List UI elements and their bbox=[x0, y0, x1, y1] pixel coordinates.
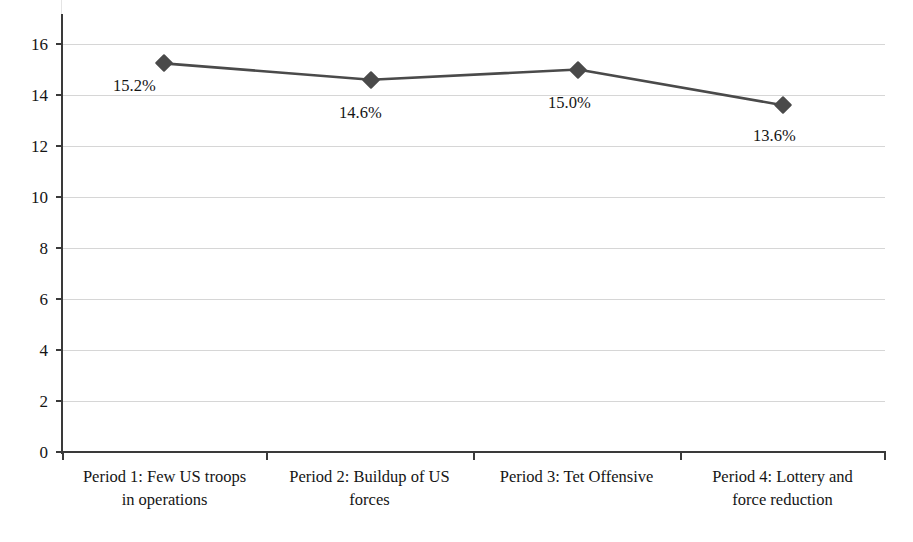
y-tick-6 bbox=[56, 298, 62, 300]
x-axis-category-label-1: Period 1: Few US troops in operations bbox=[62, 466, 267, 512]
category-label-line-4a: Period 4: Lottery and bbox=[680, 466, 885, 489]
plot-area bbox=[62, 44, 885, 452]
y-tick-16 bbox=[56, 43, 62, 45]
gridline-10 bbox=[62, 197, 885, 198]
x-tick-0 bbox=[62, 452, 64, 460]
data-point-marker-1[interactable] bbox=[155, 54, 173, 72]
gridline-16 bbox=[62, 44, 885, 45]
y-tick-label-8: 8 bbox=[8, 240, 48, 257]
data-point-marker-2[interactable] bbox=[362, 70, 380, 88]
x-axis-category-label-2: Period 2: Buildup of US forces bbox=[266, 466, 473, 512]
y-tick-12 bbox=[56, 145, 62, 147]
category-label-line-1a: Period 1: Few US troops bbox=[62, 466, 267, 489]
data-point-marker-4[interactable] bbox=[774, 96, 792, 114]
data-point-label-4: 13.6% bbox=[753, 128, 796, 145]
category-label-line-4b: force reduction bbox=[680, 489, 885, 512]
data-point-label-1: 15.2% bbox=[113, 78, 156, 95]
x-tick-4 bbox=[884, 452, 886, 460]
x-tick-3 bbox=[680, 452, 682, 460]
x-axis-category-label-3: Period 3: Tet Offensive bbox=[473, 466, 680, 489]
y-tick-14 bbox=[56, 94, 62, 96]
y-tick-label-12: 12 bbox=[8, 138, 48, 155]
gridline-12 bbox=[62, 146, 885, 147]
category-label-line-2b: forces bbox=[266, 489, 473, 512]
y-tick-label-2: 2 bbox=[8, 393, 48, 410]
chart-page: 16 14 12 10 8 6 4 2 0 15.2% 14.6% 15.0% … bbox=[0, 0, 913, 542]
y-tick-label-0: 0 bbox=[8, 444, 48, 461]
y-tick-label-14: 14 bbox=[8, 87, 48, 104]
gridline-2 bbox=[62, 401, 885, 402]
y-tick-label-16: 16 bbox=[8, 36, 48, 53]
y-tick-10 bbox=[56, 196, 62, 198]
y-axis-line bbox=[61, 14, 63, 454]
data-point-marker-3[interactable] bbox=[569, 60, 587, 78]
gridline-14 bbox=[62, 95, 885, 96]
category-label-line-2a: Period 2: Buildup of US bbox=[266, 466, 473, 489]
category-label-line-1b: in operations bbox=[62, 489, 267, 512]
gridline-4 bbox=[62, 350, 885, 351]
y-axis-tick-labels: 16 14 12 10 8 6 4 2 0 bbox=[0, 0, 48, 542]
x-tick-2 bbox=[473, 452, 475, 460]
y-tick-2 bbox=[56, 400, 62, 402]
x-tick-1 bbox=[266, 452, 268, 460]
data-point-label-3: 15.0% bbox=[548, 95, 591, 112]
data-point-label-2: 14.6% bbox=[339, 105, 382, 122]
gridline-6 bbox=[62, 299, 885, 300]
y-tick-4 bbox=[56, 349, 62, 351]
y-tick-label-10: 10 bbox=[8, 189, 48, 206]
y-tick-8 bbox=[56, 247, 62, 249]
y-tick-label-4: 4 bbox=[8, 342, 48, 359]
gridline-8 bbox=[62, 248, 885, 249]
y-tick-label-6: 6 bbox=[8, 291, 48, 308]
category-label-line-3a: Period 3: Tet Offensive bbox=[473, 466, 680, 489]
x-axis-category-label-4: Period 4: Lottery and force reduction bbox=[680, 466, 885, 512]
